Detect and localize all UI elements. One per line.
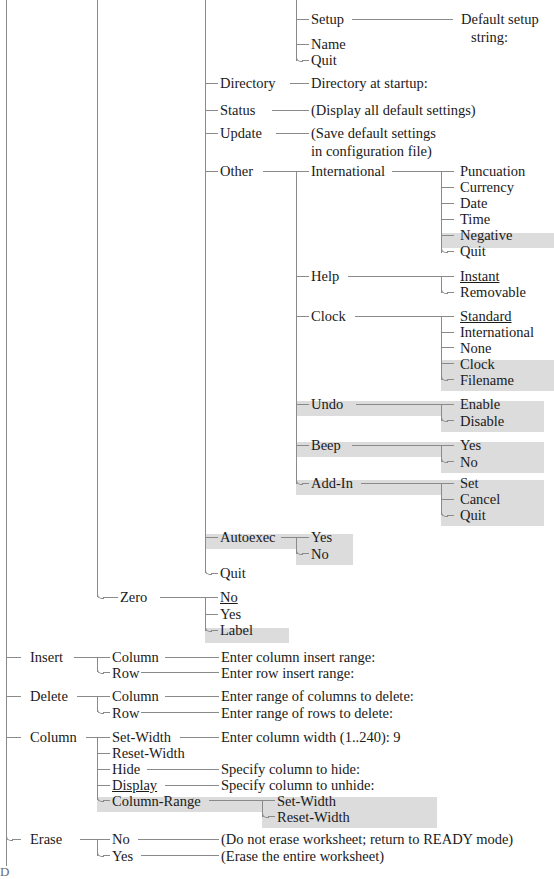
node-column-display[interactable]: Display bbox=[112, 778, 157, 793]
node-column-reset-width[interactable]: Reset-Width bbox=[112, 746, 185, 761]
stub-undo bbox=[296, 404, 309, 405]
stub-delete-column bbox=[97, 696, 110, 697]
node-undo-enable[interactable]: Enable bbox=[460, 397, 500, 412]
node-column-hide[interactable]: Hide bbox=[112, 762, 140, 777]
stub-autoexec-yes bbox=[296, 537, 309, 538]
node-cr-reset-width[interactable]: Reset-Width bbox=[277, 810, 350, 825]
node-instant[interactable]: Instant bbox=[460, 269, 499, 284]
highlight-beep-options bbox=[441, 442, 544, 473]
node-quit-other[interactable]: Quit bbox=[220, 566, 246, 581]
node-insert-column-prompt: Enter column insert range: bbox=[221, 650, 375, 665]
node-zero-yes[interactable]: Yes bbox=[220, 607, 241, 622]
stub-name bbox=[296, 44, 309, 45]
node-addin-set[interactable]: Set bbox=[460, 476, 479, 491]
node-addin-quit[interactable]: Quit bbox=[460, 508, 486, 523]
node-undo-disable[interactable]: Disable bbox=[460, 414, 504, 429]
stub-beep bbox=[296, 445, 309, 446]
node-clock-standard[interactable]: Standard bbox=[460, 309, 512, 324]
node-clock-none[interactable]: None bbox=[460, 341, 491, 356]
node-insert-column[interactable]: Column bbox=[112, 650, 159, 665]
node-update[interactable]: Update bbox=[220, 126, 262, 141]
stub-zero bbox=[103, 597, 118, 598]
node-erase-no[interactable]: No bbox=[112, 832, 130, 847]
stub-insert-column bbox=[97, 657, 110, 658]
node-column-range[interactable]: Column-Range bbox=[112, 794, 201, 809]
stub-column-hide bbox=[97, 769, 110, 770]
node-undo[interactable]: Undo bbox=[311, 397, 343, 412]
stub-undo-enable bbox=[441, 404, 454, 405]
stub-beep-yes bbox=[441, 445, 454, 446]
node-erase-yes[interactable]: Yes bbox=[112, 849, 133, 864]
node-setup[interactable]: Setup bbox=[311, 12, 344, 27]
node-directory[interactable]: Directory bbox=[220, 76, 276, 91]
stub-column-display bbox=[97, 785, 110, 786]
spine-intl bbox=[441, 171, 442, 253]
stub-delete-row bbox=[103, 712, 110, 713]
node-quit-printer[interactable]: Quit bbox=[311, 53, 337, 68]
node-erase-no-desc: (Do not erase worksheet; return to READY… bbox=[221, 832, 513, 847]
node-delete-column[interactable]: Column bbox=[112, 689, 159, 704]
link-insert-column bbox=[165, 657, 219, 658]
node-zero-no[interactable]: No bbox=[220, 590, 238, 605]
node-zero[interactable]: Zero bbox=[120, 590, 147, 605]
node-autoexec-yes[interactable]: Yes bbox=[311, 530, 332, 545]
node-zero-label[interactable]: Label bbox=[220, 623, 253, 638]
node-date[interactable]: Date bbox=[460, 196, 487, 211]
node-autoexec[interactable]: Autoexec bbox=[220, 530, 276, 545]
node-delete-column-prompt: Enter range of columns to delete: bbox=[221, 689, 414, 704]
node-beep[interactable]: Beep bbox=[311, 438, 341, 453]
node-update-desc-line2: in configuration file) bbox=[311, 144, 432, 159]
node-cr-set-width[interactable]: Set-Width bbox=[277, 794, 336, 809]
node-puncuation[interactable]: Puncuation bbox=[460, 164, 525, 179]
node-autoexec-no[interactable]: No bbox=[311, 547, 329, 562]
node-international[interactable]: International bbox=[311, 164, 385, 179]
node-negative[interactable]: Negative bbox=[460, 228, 512, 243]
stub-cr-reset-width bbox=[268, 816, 275, 817]
node-time[interactable]: Time bbox=[460, 212, 490, 227]
node-default-setup-string-line1: Default setup bbox=[461, 12, 539, 27]
node-quit-international[interactable]: Quit bbox=[460, 244, 486, 259]
node-delete-row[interactable]: Row bbox=[112, 706, 139, 721]
node-column-display-prompt: Specify column to unhide: bbox=[221, 778, 374, 793]
node-clock-international[interactable]: International bbox=[460, 325, 534, 340]
node-beep-yes[interactable]: Yes bbox=[460, 438, 481, 453]
stub-beep-no bbox=[447, 461, 454, 462]
stub-addin-quit bbox=[447, 515, 454, 516]
stub-erase-no bbox=[97, 839, 110, 840]
node-delete[interactable]: Delete bbox=[30, 689, 68, 704]
node-erase[interactable]: Erase bbox=[30, 832, 62, 847]
node-clock[interactable]: Clock bbox=[311, 309, 346, 324]
stub-help bbox=[296, 276, 309, 277]
link-help bbox=[348, 276, 453, 277]
link-undo bbox=[356, 404, 453, 405]
stub-column-reset-width bbox=[97, 753, 110, 754]
node-column[interactable]: Column bbox=[30, 730, 77, 745]
stub-erase bbox=[12, 839, 21, 840]
stub-date bbox=[441, 203, 454, 204]
spine-default bbox=[205, 0, 206, 573]
stray-edge-mark: D bbox=[0, 864, 9, 879]
node-help[interactable]: Help bbox=[311, 269, 339, 284]
node-name[interactable]: Name bbox=[311, 37, 346, 52]
node-insert[interactable]: Insert bbox=[30, 650, 63, 665]
node-clock-filename[interactable]: Filename bbox=[460, 373, 514, 388]
link-directory bbox=[290, 83, 309, 84]
node-addin[interactable]: Add-In bbox=[311, 476, 353, 491]
node-currency[interactable]: Currency bbox=[460, 180, 514, 195]
node-column-set-width[interactable]: Set-Width bbox=[112, 730, 171, 745]
stub-negative bbox=[441, 235, 454, 236]
node-clock-clock[interactable]: Clock bbox=[460, 357, 495, 372]
stub-column-set-width bbox=[97, 737, 110, 738]
stub-quit-intl bbox=[447, 251, 454, 252]
node-other[interactable]: Other bbox=[220, 164, 253, 179]
node-beep-no[interactable]: No bbox=[460, 455, 478, 470]
stub-undo-disable bbox=[447, 420, 454, 421]
stub-international bbox=[296, 171, 309, 172]
node-status[interactable]: Status bbox=[220, 103, 255, 118]
node-removable[interactable]: Removable bbox=[460, 285, 526, 300]
stub-clock-clock bbox=[441, 363, 454, 364]
link-insert-row bbox=[141, 672, 219, 673]
stub-currency bbox=[441, 187, 454, 188]
node-insert-row[interactable]: Row bbox=[112, 666, 139, 681]
node-addin-cancel[interactable]: Cancel bbox=[460, 492, 500, 507]
